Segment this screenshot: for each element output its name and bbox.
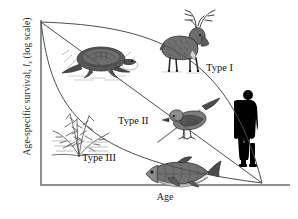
type-1-label: Type I <box>206 62 233 73</box>
survivorship-curve-figure: Age-specific survival, lx (log scale) Ag… <box>0 0 298 219</box>
type-2-label: Type II <box>118 115 148 126</box>
type-3-label: Type III <box>82 152 116 163</box>
survivorship-curves-overlay <box>0 0 298 219</box>
